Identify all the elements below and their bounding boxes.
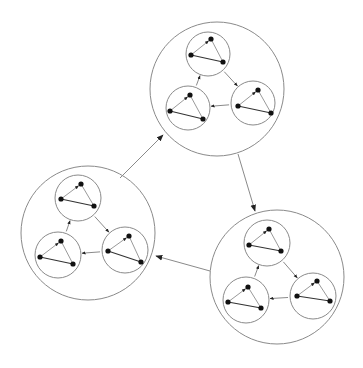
cluster-right <box>210 210 344 344</box>
graph-node <box>225 299 230 304</box>
subcluster-top-a <box>186 32 230 76</box>
subcluster-link <box>66 221 70 232</box>
graph-node <box>258 305 263 310</box>
graph-node <box>126 233 131 238</box>
subcluster-top-b <box>231 81 275 125</box>
graph-edge <box>62 243 72 262</box>
clusters <box>21 22 344 344</box>
subcluster-link <box>82 252 100 253</box>
graph-node <box>78 181 83 186</box>
graph-node <box>220 59 225 64</box>
subcluster-right-b <box>290 273 336 319</box>
subcluster-link <box>211 105 229 106</box>
graph-node <box>245 284 250 289</box>
graph-edge <box>212 41 222 60</box>
cluster-top <box>150 22 284 156</box>
graph-edge <box>249 289 260 307</box>
graph-node <box>294 293 299 298</box>
graph-edge <box>270 231 280 249</box>
subcluster-link <box>224 72 237 86</box>
cluster-link-right-to-left <box>156 256 210 271</box>
graph-node <box>188 52 193 57</box>
graph-edge <box>82 186 93 205</box>
graph-edge <box>108 251 141 262</box>
cluster-link-left-to-top <box>120 135 163 178</box>
cluster-boundary <box>150 22 284 156</box>
graph-edge <box>191 55 223 62</box>
cluster-link-top-to-right <box>238 154 255 211</box>
subcluster-link <box>95 217 109 233</box>
graph-node <box>58 196 63 201</box>
subcluster-link <box>196 76 200 86</box>
subcluster-boundary <box>166 86 210 130</box>
graph-node <box>246 242 251 247</box>
subcluster-link <box>283 262 297 278</box>
graph-edge <box>191 97 202 117</box>
graph-node <box>255 87 260 92</box>
graph-edge <box>230 289 246 301</box>
graph-node <box>327 298 332 303</box>
graph-edge <box>61 199 94 206</box>
cluster-left <box>21 166 155 300</box>
subcluster-left-c <box>35 232 81 278</box>
subcluster-boundary <box>231 81 275 125</box>
graph-edge <box>172 97 188 110</box>
graph-edge <box>251 231 267 244</box>
graph-node <box>278 248 283 253</box>
graph-node <box>58 238 63 243</box>
subcluster-right-c <box>223 277 269 323</box>
subcluster-top-c <box>166 86 210 130</box>
graph-edge <box>63 186 79 198</box>
cluster-boundary <box>210 210 344 344</box>
graph-node <box>37 254 42 259</box>
graph-edge <box>110 238 127 250</box>
graph-node <box>187 92 192 97</box>
subcluster-left-b <box>102 227 148 273</box>
graph-node <box>235 103 240 108</box>
graph-edge <box>318 283 329 300</box>
graph-edge <box>40 257 73 264</box>
graph-node <box>91 203 96 208</box>
graph-edge <box>130 238 140 260</box>
graph-node <box>314 278 319 283</box>
graph-edge <box>299 283 315 295</box>
graph-node <box>268 110 273 115</box>
graph-node <box>208 36 213 41</box>
graph-edge <box>193 41 209 54</box>
graph-edge <box>238 106 271 113</box>
graph-node <box>266 226 271 231</box>
graph-node <box>167 108 172 113</box>
graph-edge <box>228 302 261 308</box>
cluster-links <box>120 135 255 271</box>
subcluster-right-a <box>244 220 290 266</box>
subcluster-link <box>270 297 288 298</box>
graph-node <box>200 116 205 121</box>
cluster-boundary <box>21 166 155 300</box>
graph-edge <box>170 111 203 119</box>
subcluster-link <box>255 266 259 277</box>
nested-cycle-diagram <box>0 0 363 368</box>
graph-edge <box>259 92 270 112</box>
subcluster-left-a <box>55 175 101 221</box>
graph-edge <box>42 243 59 256</box>
graph-edge <box>249 245 281 251</box>
graph-node <box>70 261 75 266</box>
graph-edge <box>240 92 256 105</box>
graph-node <box>138 259 143 264</box>
graph-edge <box>297 296 330 301</box>
graph-node <box>105 248 110 253</box>
